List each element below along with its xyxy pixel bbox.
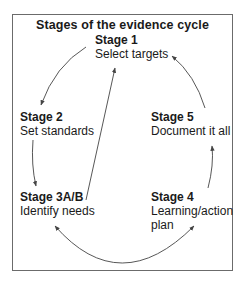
arrow-stage3-to-stage1 xyxy=(86,68,115,200)
arrow-stage5-to-stage1 xyxy=(172,56,205,108)
arrow-stage4-to-stage5 xyxy=(208,146,213,188)
arrow-stage2-to-stage3 xyxy=(32,140,36,186)
arrow-stage3-stage4-arc xyxy=(55,226,194,263)
arrows-layer xyxy=(0,0,245,288)
arrow-stage1-to-stage2 xyxy=(41,47,86,105)
